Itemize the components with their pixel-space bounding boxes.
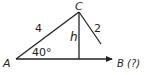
vertex-C-label: C	[75, 0, 83, 13]
side-AC-label: 4	[35, 22, 42, 35]
triangle-diagram: 4 h 2 40° A C B (?)	[0, 0, 146, 75]
vertex-B-label: B (?)	[117, 58, 140, 69]
height-label: h	[70, 30, 78, 44]
vertex-A-label: A	[2, 57, 11, 70]
angle-A-label: 40°	[32, 46, 52, 59]
side-CB-label: 2	[94, 22, 101, 35]
